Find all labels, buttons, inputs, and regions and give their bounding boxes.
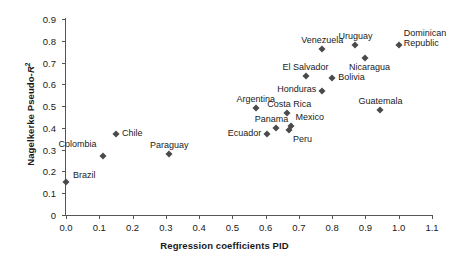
y-axis-tick-label: 0.5 bbox=[43, 101, 56, 112]
data-point-label: Uruguay bbox=[338, 32, 372, 41]
data-point-marker bbox=[272, 124, 279, 131]
y-axis-tick-label: 0 bbox=[51, 210, 56, 221]
data-point-label: Brazil bbox=[73, 172, 96, 181]
data-point-marker bbox=[319, 46, 326, 53]
x-axis-tick: 0.3 bbox=[166, 215, 167, 219]
x-axis-tick: 0.1 bbox=[99, 215, 100, 219]
x-axis-line bbox=[65, 215, 433, 216]
y-axis-tick: 0.1 bbox=[62, 193, 66, 194]
x-axis-tick: 1.0 bbox=[399, 215, 400, 219]
x-axis-tick-label: 0.3 bbox=[159, 222, 172, 233]
x-axis-tick-label: 0.2 bbox=[126, 222, 139, 233]
y-axis-title-symbol: R bbox=[25, 66, 36, 73]
y-axis-tick: 0.4 bbox=[62, 128, 66, 129]
data-point-label: Mexico bbox=[296, 113, 325, 122]
x-axis-tick: 0.7 bbox=[299, 215, 300, 219]
data-point-label: Ecuador bbox=[228, 130, 262, 139]
data-point-label: Panama bbox=[255, 114, 289, 123]
data-point-label: El Salvador bbox=[283, 62, 329, 71]
x-axis-tick-label: 1.0 bbox=[392, 222, 405, 233]
x-axis-tick: 0.2 bbox=[133, 215, 134, 219]
y-axis-title: Nagelkerke Pseudo-R2 bbox=[24, 14, 36, 214]
data-point-marker bbox=[377, 107, 384, 114]
data-point-label: Peru bbox=[293, 135, 312, 144]
x-axis-tick: 1.1 bbox=[432, 215, 433, 219]
x-axis-tick: 0.8 bbox=[332, 215, 333, 219]
data-point-label: DominicanRepublic bbox=[404, 29, 447, 48]
y-axis-tick-label: 0.6 bbox=[43, 79, 56, 90]
x-axis-tick: 0.9 bbox=[365, 215, 366, 219]
x-axis-tick: 0.6 bbox=[266, 215, 267, 219]
data-point-label: Bolivia bbox=[338, 73, 365, 82]
plot-area: 00.10.20.30.40.50.60.70.80.90.00.10.20.3… bbox=[66, 19, 432, 215]
data-point-label: Nicaragua bbox=[349, 63, 390, 72]
y-axis-tick: 0.5 bbox=[62, 106, 66, 107]
data-point-marker bbox=[352, 42, 359, 49]
x-axis-title: Regression coefficients PID bbox=[0, 240, 449, 251]
y-axis-tick-label: 0.1 bbox=[43, 188, 56, 199]
data-point-marker bbox=[264, 131, 271, 138]
data-point-marker bbox=[166, 150, 173, 157]
data-point-marker bbox=[112, 131, 119, 138]
x-axis-tick-label: 0.9 bbox=[359, 222, 372, 233]
data-point-marker bbox=[319, 87, 326, 94]
data-point-label: Colombia bbox=[59, 140, 97, 149]
data-point-label: Chile bbox=[122, 130, 143, 139]
y-axis-title-prefix: Nagelkerke Pseudo- bbox=[25, 73, 36, 166]
data-point-marker bbox=[252, 105, 259, 112]
scatter-chart: Nagelkerke Pseudo-R2 Regression coeffici… bbox=[0, 0, 449, 265]
y-axis-tick: 0.8 bbox=[62, 41, 66, 42]
data-point-label: Paraguay bbox=[150, 141, 189, 150]
x-axis-tick-label: 1.1 bbox=[425, 222, 438, 233]
y-axis-tick-label: 0.8 bbox=[43, 35, 56, 46]
y-axis-tick: 0.2 bbox=[62, 171, 66, 172]
data-point-marker bbox=[329, 74, 336, 81]
y-axis-tick: 0.9 bbox=[62, 19, 66, 20]
y-axis-tick-label: 0.9 bbox=[43, 14, 56, 25]
x-axis-tick-label: 0.8 bbox=[326, 222, 339, 233]
x-axis-tick-label: 0.1 bbox=[93, 222, 106, 233]
x-axis-tick-label: 0.6 bbox=[259, 222, 272, 233]
y-axis-tick-label: 0.2 bbox=[43, 166, 56, 177]
data-point-label: Costa Rica bbox=[267, 99, 311, 108]
x-axis-tick-label: 0.4 bbox=[192, 222, 205, 233]
y-axis-tick-label: 0.3 bbox=[43, 144, 56, 155]
y-axis-tick: 0.6 bbox=[62, 84, 66, 85]
data-point-marker bbox=[284, 109, 291, 116]
y-axis-title-superscript: 2 bbox=[24, 62, 31, 66]
data-point-label: Venezuela bbox=[301, 36, 343, 45]
x-axis-tick-label: 0.5 bbox=[226, 222, 239, 233]
y-axis-tick: 0.7 bbox=[62, 63, 66, 64]
y-axis-tick-label: 0.4 bbox=[43, 122, 56, 133]
data-point-label: Honduras bbox=[277, 85, 316, 94]
x-axis-tick: 0.5 bbox=[232, 215, 233, 219]
data-point-marker bbox=[395, 42, 402, 49]
data-point-marker bbox=[99, 153, 106, 160]
y-axis-tick-label: 0.7 bbox=[43, 57, 56, 68]
x-axis-tick: 0.0 bbox=[66, 215, 67, 219]
x-axis-tick: 0.4 bbox=[199, 215, 200, 219]
x-axis-tick-label: 0.0 bbox=[59, 222, 72, 233]
data-point-marker bbox=[62, 179, 69, 186]
data-point-label: Guatemala bbox=[358, 97, 402, 106]
x-axis-tick-label: 0.7 bbox=[292, 222, 305, 233]
data-point-marker bbox=[362, 55, 369, 62]
data-point-label-line: Republic bbox=[404, 38, 447, 47]
data-point-marker bbox=[302, 72, 309, 79]
